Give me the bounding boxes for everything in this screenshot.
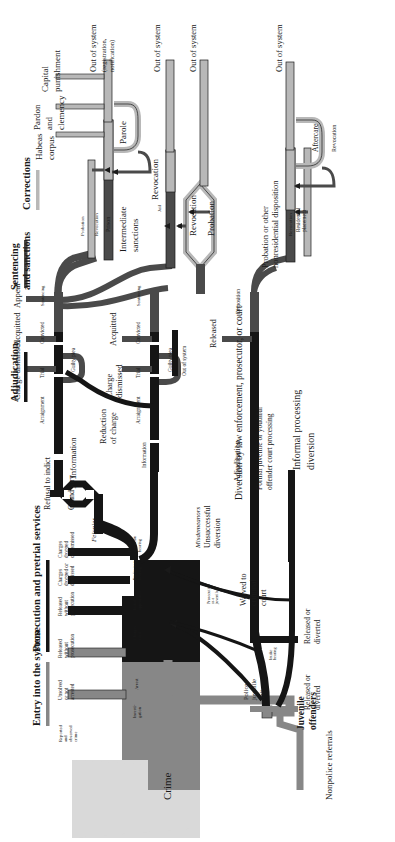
- parole-label: Parole: [118, 121, 128, 144]
- probation-entry: [196, 264, 205, 294]
- trial-label-2: Trial: [135, 367, 141, 378]
- charges-dropped-arm-2: [68, 548, 130, 556]
- waived-label-3: court: [259, 589, 268, 606]
- released-juv-label: Released: [209, 319, 218, 348]
- sentencing-header-label-1: Sentencing: [9, 243, 20, 290]
- out-of-system-misd-label: Out of system: [181, 345, 187, 376]
- prosecution-header-bar: [46, 560, 50, 652]
- sentencing-label-1: Sentencing: [40, 285, 45, 306]
- prob-nonres-label-1: Probation or other: [260, 206, 270, 268]
- reduction-of-charge-1: Reduction: [98, 408, 108, 444]
- charges-filed-2: filed: [137, 631, 142, 640]
- habeas-corpus-arm: [56, 132, 104, 137]
- corrections-header-bar: [36, 170, 40, 210]
- convicted-label-1: Convicted: [39, 322, 45, 344]
- jail-label: Jail: [157, 204, 162, 212]
- residential-placement-2: placement: [301, 209, 307, 232]
- released-diverted-arm-1: [250, 706, 298, 712]
- guilty-plea-label-1: Guilty plea: [70, 347, 76, 372]
- entry-header-bar: [46, 662, 50, 726]
- waived-label-1: Waived to: [239, 574, 248, 606]
- intake-hearing-2: hearing: [272, 647, 277, 660]
- out-of-system-label-1: Out of system: [152, 24, 162, 72]
- guilty-plea-label-2: Guilty plea: [167, 347, 173, 372]
- pardon-label-1: Pardon: [32, 104, 42, 130]
- reduction-of-charge-2: of charge: [108, 412, 118, 444]
- prosecution-header-label: Prosecution and pretrial services: [31, 505, 42, 652]
- charges-dropped-2c: or dismissed: [69, 532, 75, 558]
- out-of-system-riser-4: [286, 62, 294, 150]
- released-wo-pros-2c: prosecution: [69, 591, 75, 616]
- corrections-header-label: Corrections: [21, 157, 32, 210]
- released-diverted-1b: diverted: [313, 685, 322, 710]
- grand-jury-label: Grand jury: [67, 475, 76, 510]
- charge-dismissed-label-2a: Charge: [104, 373, 114, 398]
- formal-juvenile-label-1: Formal juvenile or youthful: [255, 407, 264, 490]
- released-diverted-2a: Released or: [303, 608, 312, 644]
- revocation-juv-1: Revocation: [288, 213, 293, 236]
- released-diverted-1a: Released or: [303, 674, 312, 710]
- misdemeanors-label: Misdemeanors: [194, 507, 202, 549]
- reported-crime-l4: crime: [73, 732, 78, 742]
- arrest-label: Arrest: [134, 678, 139, 690]
- sentencing-header-label-2: and sanctions: [21, 232, 32, 290]
- informal-processing-label-1: Informal processing: [291, 390, 302, 470]
- nonpolice-referrals-label: Nonpolice referrals: [324, 730, 334, 800]
- adjudication-juv-label: Adjudication: [233, 440, 242, 482]
- released-without-pros-arm-2: [68, 606, 130, 615]
- out-of-system-label-reg-3: notification): [108, 40, 116, 72]
- investigation-label-2: gation: [137, 706, 142, 718]
- released-wo-pros-1c: prosecution: [69, 633, 75, 658]
- intermediate-label-2: sanctions: [130, 218, 140, 252]
- capital-punishment-label-1: Capital: [40, 66, 50, 92]
- pardon-label-2: and: [44, 117, 54, 130]
- pardon-label-3: clemency: [56, 95, 66, 130]
- released-diverted-2b: diverted: [313, 619, 322, 644]
- prob-nonres-label-2: nonresidential disposition: [270, 180, 280, 268]
- convicted-label-2: Convicted: [135, 322, 141, 344]
- crime-label: Crime: [161, 772, 173, 800]
- revocation-label-big: Revocation: [150, 159, 160, 200]
- out-of-system-riser-2: [166, 60, 174, 152]
- revocation-juv-2: Revocation: [331, 125, 337, 152]
- revocation-label-prob: Revocation: [94, 213, 99, 236]
- charges-dropped-1c: dismissed: [69, 565, 75, 586]
- adjudication-header-bar: [24, 352, 28, 402]
- sentencing-label-2: Sentencing: [136, 285, 141, 306]
- probation-label-hex: Probation: [206, 201, 216, 236]
- arraignment-label-1: Arraignment: [39, 396, 45, 424]
- aftercare-label: Aftercare: [311, 123, 320, 152]
- out-of-system-riser-3: [200, 60, 208, 186]
- arraignment-label-2: Arraignment: [135, 396, 141, 424]
- trial-label-1: Trial: [39, 367, 45, 378]
- out-of-system-label-reg-2: (registration,: [100, 38, 108, 72]
- intermediate-label-1: Intermediate: [118, 207, 128, 252]
- habeas-label-2: corpus: [46, 136, 56, 160]
- capital-punishment-arm: [56, 74, 104, 79]
- acquitted-label-1: Acquitted: [12, 312, 22, 346]
- initial-appearance-2: appearance: [137, 591, 142, 610]
- probation-label-1: Probation: [80, 216, 85, 236]
- refusal-to-indict-label: Refusal to indict: [43, 456, 52, 510]
- information-misd-label: Information: [141, 442, 147, 468]
- acquitted-label-2: Acquitted: [108, 312, 118, 346]
- prison-label: Prison: [105, 217, 111, 232]
- misd-sentencing: [150, 292, 159, 332]
- habeas-label-1: Habeas: [34, 133, 44, 160]
- appeal-label: Appeal: [12, 283, 22, 308]
- charge-dismissed-label-1: Charge dismissed: [12, 339, 22, 400]
- unsuccessful-label-1: Unsuccessful: [203, 505, 212, 548]
- unsolved-arm: [68, 690, 126, 699]
- preliminary-hearing-2: hearing: [137, 566, 142, 580]
- felonies-label: Felonies: [90, 518, 98, 543]
- released-without-pros-arm-1: [68, 648, 126, 657]
- prosecution-juv-3: juvenile: [214, 590, 219, 605]
- capital-punishment-label-2: punishment: [52, 50, 62, 92]
- unsolved-label-3: arrested: [69, 683, 75, 700]
- information-felony-band: [54, 418, 63, 490]
- police-juv-1: Police: [242, 684, 249, 700]
- out-of-system-label-2: Out of system: [188, 24, 198, 72]
- disposition-label: Disposition: [235, 289, 241, 314]
- police-juv-2: juvenile: [250, 679, 257, 701]
- probation-bar-f: [88, 160, 95, 258]
